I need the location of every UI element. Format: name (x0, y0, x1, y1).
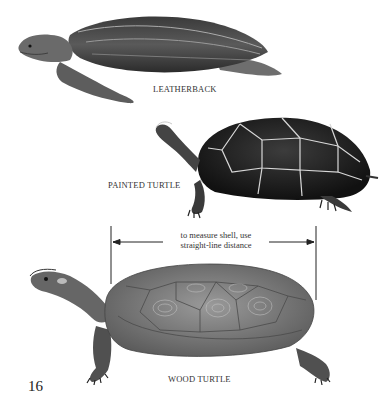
measurement-note: to measure shell, use straight-line dist… (163, 230, 269, 250)
page-illustrations (0, 0, 381, 412)
page-number: 16 (28, 378, 43, 395)
leatherback-illustration (18, 16, 282, 103)
measurement-note-line1: to measure shell, use (166, 230, 266, 240)
label-painted-turtle: PAINTED TURTLE (108, 180, 180, 190)
label-leatherback: LEATHERBACK (153, 84, 217, 94)
measurement-note-line2: straight-line distance (166, 240, 266, 250)
painted-turtle-illustration (156, 118, 378, 218)
label-wood-turtle: WOOD TURTLE (168, 374, 231, 384)
wood-turtle-illustration (30, 264, 330, 385)
